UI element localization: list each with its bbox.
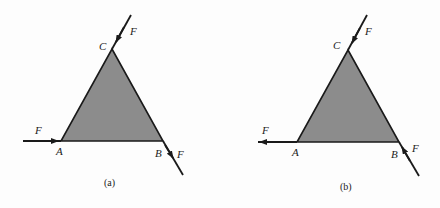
arrow-b-B-icon <box>402 147 410 161</box>
label-b-B: B <box>391 148 398 160</box>
arrow-b-C-icon <box>352 28 360 43</box>
label-b-A: A <box>291 146 299 158</box>
arrow-a-C-icon <box>116 27 124 42</box>
triangle-b <box>297 50 399 142</box>
label-a-B: B <box>155 147 162 159</box>
label-b-C: C <box>333 39 341 51</box>
arrow-a-B-icon <box>165 145 173 158</box>
force-diagrams: F A C F B F (a) F A C F B F (b) <box>0 0 440 208</box>
label-a-F-B: F <box>176 148 184 160</box>
label-a-F-A: F <box>34 124 42 136</box>
label-a-C: C <box>99 40 107 52</box>
diagram-canvas: F A C F B F (a) F A C F B F (b) <box>0 0 440 208</box>
label-a-F-C: F <box>129 25 137 37</box>
caption-a: (a) <box>104 177 115 189</box>
label-b-F-B: F <box>411 142 419 154</box>
label-b-F-A: F <box>261 124 269 136</box>
caption-b: (b) <box>340 181 352 193</box>
label-a-A: A <box>55 145 63 157</box>
triangle-a <box>61 49 163 141</box>
panel-b: F A C F B F (b) <box>258 15 419 193</box>
panel-a: F A C F B F (a) <box>23 15 184 189</box>
label-b-F-C: F <box>364 25 372 37</box>
